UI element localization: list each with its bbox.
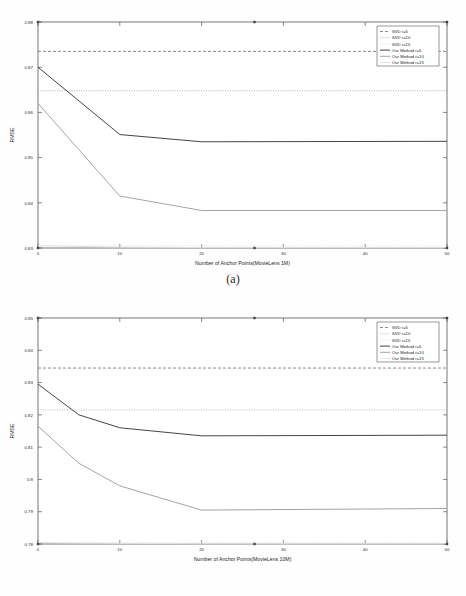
caption-a: (a): [0, 272, 466, 287]
y-tick-label: 0.87: [24, 65, 33, 70]
legend-label-1: SVD r=10: [392, 35, 411, 40]
frame-marker: [446, 247, 448, 249]
legend-label-5: Our Method r=15: [392, 60, 424, 65]
plot-area-a: 0.830.840.850.860.870.8801020304050Numbe…: [0, 0, 466, 268]
x-tick-label: 50: [445, 251, 450, 256]
y-tick-label: 0.83: [24, 246, 33, 251]
frame-marker: [446, 543, 448, 545]
y-tick-label: 0.84: [24, 201, 33, 206]
legend-label-4: Our Method r=10: [392, 350, 424, 355]
legend-label-2: SVD r=15: [392, 42, 411, 47]
legend-label-3: Our Method r=5: [392, 344, 422, 349]
frame-marker: [253, 543, 255, 545]
legend-label-2: SVD r=15: [392, 338, 411, 343]
legend-label-5: Our Method r=15: [392, 356, 424, 361]
y-tick-label: 0.84: [24, 348, 33, 353]
y-tick-label: 0.83: [24, 380, 33, 385]
frame-marker: [253, 317, 255, 319]
x-tick-label: 40: [363, 547, 368, 552]
x-tick-label: 50: [445, 547, 450, 552]
figure-panel-b: 0.780.790.80.810.820.830.840.85010203040…: [0, 296, 466, 596]
frame-marker: [446, 317, 448, 319]
frame-marker: [253, 247, 255, 249]
x-tick-label: 20: [199, 547, 204, 552]
x-tick-label: 20: [199, 251, 204, 256]
y-tick-label: 0.85: [24, 155, 33, 160]
frame-marker: [37, 543, 39, 545]
frame-marker: [37, 317, 39, 319]
legend-label-1: SVD r=10: [392, 331, 411, 336]
legend-label-0: SVD r=5: [392, 325, 409, 330]
frame-marker: [37, 247, 39, 249]
x-axis-title: Number of Anchor Points(MovieLens 1M): [195, 260, 290, 266]
y-tick-label: 0.88: [24, 20, 33, 25]
x-tick-label: 10: [117, 547, 122, 552]
legend-label-4: Our Method r=10: [392, 54, 424, 59]
x-tick-label: 30: [281, 547, 286, 552]
legend-label-0: SVD r=5: [392, 29, 409, 34]
y-tick-label: 0.81: [24, 445, 33, 450]
x-axis-title: Number of Anchor Points(MovieLens 10M): [194, 556, 292, 562]
frame-marker: [253, 21, 255, 23]
y-tick-label: 0.8: [27, 477, 34, 482]
x-tick-label: 30: [281, 251, 286, 256]
y-tick-label: 0.86: [24, 110, 33, 115]
y-axis-title: RMSE: [9, 423, 15, 439]
x-tick-label: 10: [117, 251, 122, 256]
y-tick-label: 0.79: [24, 509, 33, 514]
y-axis-title: RMSE: [9, 127, 15, 143]
y-tick-label: 0.82: [24, 413, 33, 418]
plot-area-b: 0.780.790.80.810.820.830.840.85010203040…: [0, 296, 466, 564]
legend-label-3: Our Method r=5: [392, 48, 422, 53]
figure-page: 0.830.840.850.860.870.8801020304050Numbe…: [0, 0, 466, 596]
chart-a-svg: 0.830.840.850.860.870.8801020304050Numbe…: [0, 0, 466, 268]
x-tick-label: 0: [37, 251, 40, 256]
y-tick-label: 0.85: [24, 316, 33, 321]
frame-marker: [37, 21, 39, 23]
frame-marker: [446, 21, 448, 23]
x-tick-label: 0: [37, 547, 40, 552]
x-tick-label: 40: [363, 251, 368, 256]
y-tick-label: 0.78: [24, 542, 33, 547]
chart-b-svg: 0.780.790.80.810.820.830.840.85010203040…: [0, 296, 466, 564]
figure-panel-a: 0.830.840.850.860.870.8801020304050Numbe…: [0, 0, 466, 300]
